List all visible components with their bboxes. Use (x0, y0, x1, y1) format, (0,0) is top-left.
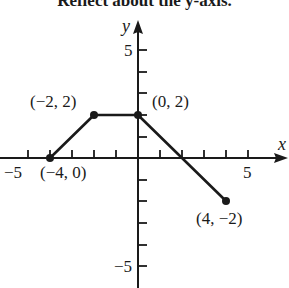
point-label-neg4-0: (−4, 0) (40, 163, 86, 182)
point-label-0-2: (0, 2) (152, 92, 189, 111)
point-4-neg2 (222, 197, 230, 205)
y-axis-label: y (120, 16, 130, 36)
y-tick-label-5: 5 (124, 41, 133, 60)
coordinate-graph: y x −5 5 5 −5 (−4, 0) (−2, 2) (0, 2) (4,… (0, 0, 289, 288)
point-label-4-neg2: (4, −2) (196, 209, 242, 228)
point-label-neg2-2: (−2, 2) (30, 92, 76, 111)
y-axis-arrow-icon (133, 20, 143, 34)
point-0-2 (134, 111, 142, 119)
point-neg4-0 (46, 154, 54, 162)
x-tick-label-neg5: −5 (4, 163, 22, 182)
x-tick-label-5: 5 (243, 163, 252, 182)
x-axis-arrow-icon (274, 153, 288, 163)
x-axis-label: x (277, 134, 286, 154)
y-tick-label-neg5: −5 (114, 257, 132, 276)
point-neg2-2 (90, 111, 98, 119)
